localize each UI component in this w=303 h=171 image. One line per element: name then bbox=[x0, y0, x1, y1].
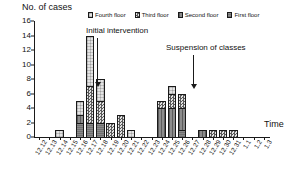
bar-segment-first-floor bbox=[76, 123, 85, 138]
bar-segment-third-floor bbox=[209, 130, 218, 137]
bar-chart: No. of cases Time Fourth floorThird floo… bbox=[0, 0, 303, 171]
legend-swatch-icon bbox=[135, 12, 140, 18]
x-axis-tick-labels: 12.1212.1312.1412.1512.1612.1712.1812.19… bbox=[34, 139, 270, 171]
annotation-arrow-2 bbox=[193, 55, 194, 84]
annotation-label-1: Initial intervention bbox=[86, 26, 148, 35]
bar-segment-first-floor bbox=[86, 123, 95, 138]
bar-12-14 bbox=[55, 130, 64, 137]
bar-segment-third-floor bbox=[168, 94, 177, 109]
bar-segment-fourth-floor bbox=[127, 130, 136, 137]
bar-12-21 bbox=[127, 130, 136, 137]
bar-segment-second-floor bbox=[178, 108, 187, 130]
bar-12-18 bbox=[96, 79, 105, 137]
bar-segment-second-floor bbox=[76, 115, 85, 122]
y-axis-tick-mark bbox=[31, 93, 34, 94]
bar-segment-second-floor bbox=[198, 130, 207, 137]
bar-12-30 bbox=[219, 130, 228, 137]
bar-12-28 bbox=[198, 130, 207, 137]
y-axis-tick-label: 16 bbox=[22, 17, 31, 25]
legend-item-fourth-floor: Fourth floor bbox=[88, 12, 126, 18]
y-axis-tick-mark bbox=[31, 108, 34, 109]
bar-segment-fourth-floor bbox=[55, 130, 64, 137]
legend-label: Fourth floor bbox=[95, 12, 126, 18]
bar-12-20 bbox=[117, 115, 126, 137]
y-axis-tick-mark bbox=[31, 64, 34, 65]
annotation-arrow-1 bbox=[97, 38, 98, 82]
bar-segment-fourth-floor bbox=[86, 36, 95, 87]
y-axis-title: No. of cases bbox=[22, 2, 72, 12]
y-axis-tick-mark bbox=[31, 35, 34, 36]
bar-12-19 bbox=[106, 123, 115, 138]
annotation-label-2: Suspension of classes bbox=[166, 43, 246, 52]
bar-segment-third-floor bbox=[117, 115, 126, 137]
bar-segment-fourth-floor bbox=[168, 86, 177, 93]
bar-segment-third-floor bbox=[229, 130, 238, 137]
bar-segment-second-floor bbox=[157, 108, 166, 137]
legend-swatch-icon bbox=[178, 12, 183, 18]
bar-segment-third-floor bbox=[96, 101, 105, 123]
bar-segment-third-floor bbox=[86, 86, 95, 122]
y-axis-tick-mark bbox=[31, 21, 34, 22]
y-axis-tick-label: 14 bbox=[22, 32, 31, 40]
y-axis-tick-mark bbox=[31, 137, 34, 138]
x-axis-tick-label: 1.2 bbox=[253, 139, 263, 150]
bar-segment-third-floor bbox=[157, 101, 166, 108]
plot-area: 0246810121416 bbox=[34, 21, 269, 137]
bar-12-17 bbox=[86, 36, 95, 138]
bar-segment-first-floor bbox=[96, 123, 105, 138]
y-axis-tick-mark bbox=[31, 122, 34, 123]
legend-item-first-floor: First floor bbox=[227, 12, 259, 18]
legend-label: Third floor bbox=[142, 12, 169, 18]
y-axis-tick-label: 10 bbox=[22, 61, 31, 69]
bar-12-25 bbox=[168, 86, 177, 137]
bar-segment-third-floor bbox=[219, 130, 228, 137]
bar-12-31 bbox=[229, 130, 238, 137]
legend-swatch-icon bbox=[227, 12, 232, 18]
bar-12-16 bbox=[76, 101, 85, 137]
legend-label: Second floor bbox=[185, 12, 219, 18]
legend-swatch-icon bbox=[88, 12, 93, 18]
bar-12-26 bbox=[178, 94, 187, 138]
y-axis-tick-mark bbox=[31, 79, 34, 80]
bar-segment-third-floor bbox=[106, 123, 115, 138]
chart-legend: Fourth floorThird floorSecond floorFirst… bbox=[88, 9, 259, 20]
bar-segment-third-floor bbox=[178, 94, 187, 109]
legend-item-second-floor: Second floor bbox=[178, 12, 219, 18]
bar-12-24 bbox=[157, 94, 166, 138]
x-axis-tick-label: 1.3 bbox=[263, 139, 273, 150]
x-axis-tick-label: 1.1 bbox=[243, 139, 253, 150]
y-axis-tick-label: 12 bbox=[22, 46, 31, 54]
bar-segment-first-floor bbox=[178, 130, 187, 137]
bar-segment-fourth-floor bbox=[76, 101, 85, 116]
bar-12-29 bbox=[209, 130, 218, 137]
legend-item-third-floor: Third floor bbox=[135, 12, 169, 18]
y-axis-tick-mark bbox=[31, 50, 34, 51]
bar-segment-second-floor bbox=[168, 108, 177, 137]
legend-label: First floor bbox=[234, 12, 259, 18]
